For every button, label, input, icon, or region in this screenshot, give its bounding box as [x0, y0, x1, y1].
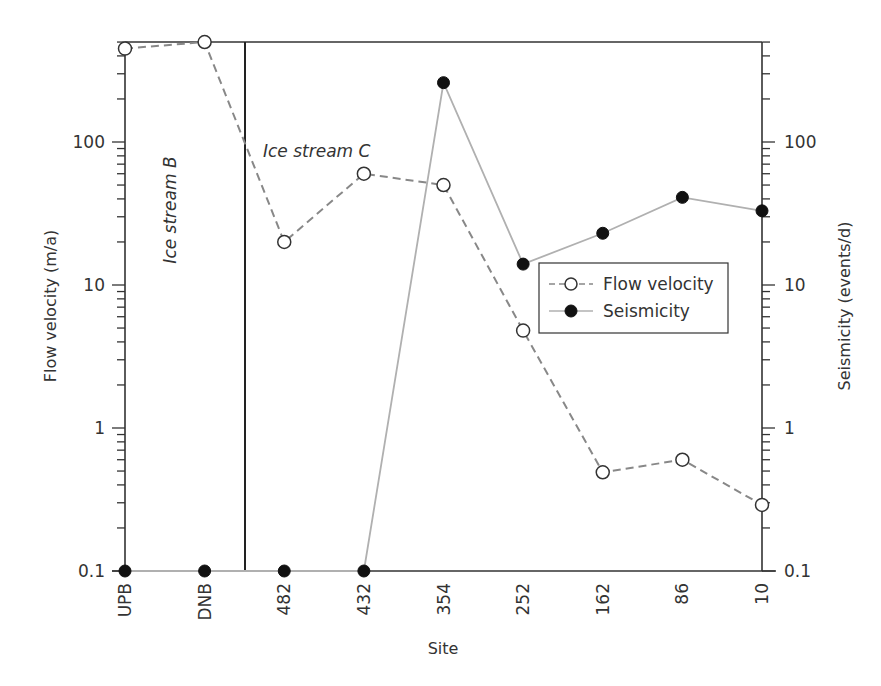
legend-filled-circle-icon	[565, 305, 577, 317]
legend: Flow velocity Seismicity	[539, 263, 728, 333]
dual-axis-log-chart: 0.1110100 0.1110100 UPBDNB48243235425216…	[0, 0, 881, 686]
x-tick-label: UPB	[115, 583, 135, 617]
seismicity-point	[597, 227, 609, 239]
legend-flow-label: Flow velocity	[603, 274, 714, 294]
right-y-ticks: 0.1110100	[762, 42, 816, 581]
flow-velocity-point	[596, 466, 609, 479]
left-y-ticks: 0.1110100	[73, 42, 125, 581]
seismicity-point	[358, 565, 370, 577]
x-tick-label: 10	[752, 583, 772, 605]
flow-velocity-point	[119, 42, 132, 55]
y-tick-label: 0.1	[78, 561, 105, 581]
flow-velocity-point	[756, 498, 769, 511]
chart-canvas: 0.1110100 0.1110100 UPBDNB48243235425216…	[0, 0, 881, 686]
x-tick-label: 252	[513, 583, 533, 615]
seismicity-point	[756, 205, 768, 217]
y-tick-label: 100	[73, 132, 105, 152]
flow-velocity-point	[676, 453, 689, 466]
x-tick-labels: UPBDNB4824323542521628610	[115, 583, 772, 620]
seismicity-point	[199, 565, 211, 577]
flow-velocity-point	[517, 324, 530, 337]
flow-velocity-point	[437, 179, 450, 192]
legend-open-circle-icon	[565, 278, 577, 290]
x-tick-label: 162	[593, 583, 613, 615]
seismicity-point	[517, 258, 529, 270]
ice-stream-b-label: Ice stream B	[160, 156, 180, 263]
flow-velocity-point	[278, 235, 291, 248]
x-tick-label: 86	[672, 583, 692, 605]
y-tick-label: 1	[784, 418, 795, 438]
seismicity-point	[438, 77, 450, 89]
flow-velocity-point	[198, 36, 211, 49]
x-axis-title: Site	[428, 639, 459, 658]
seismicity-point	[278, 565, 290, 577]
right-y-axis-title: Seismicity (events/d)	[835, 222, 854, 391]
flow-velocity-point	[357, 167, 370, 180]
x-tick-label: 432	[354, 583, 374, 615]
y-tick-label: 0.1	[784, 561, 811, 581]
y-tick-label: 100	[784, 132, 816, 152]
y-tick-label: 10	[784, 275, 806, 295]
ice-stream-c-label: Ice stream C	[263, 141, 371, 161]
seismicity-point	[119, 565, 131, 577]
y-tick-label: 10	[83, 275, 105, 295]
x-tick-label: 354	[434, 583, 454, 615]
seismicity-point	[676, 191, 688, 203]
legend-seis-label: Seismicity	[603, 301, 690, 321]
x-tick-label: 482	[274, 583, 294, 615]
y-tick-label: 1	[94, 418, 105, 438]
left-y-axis-title: Flow velocity (m/a)	[41, 230, 60, 383]
x-tick-label: DNB	[195, 583, 215, 620]
